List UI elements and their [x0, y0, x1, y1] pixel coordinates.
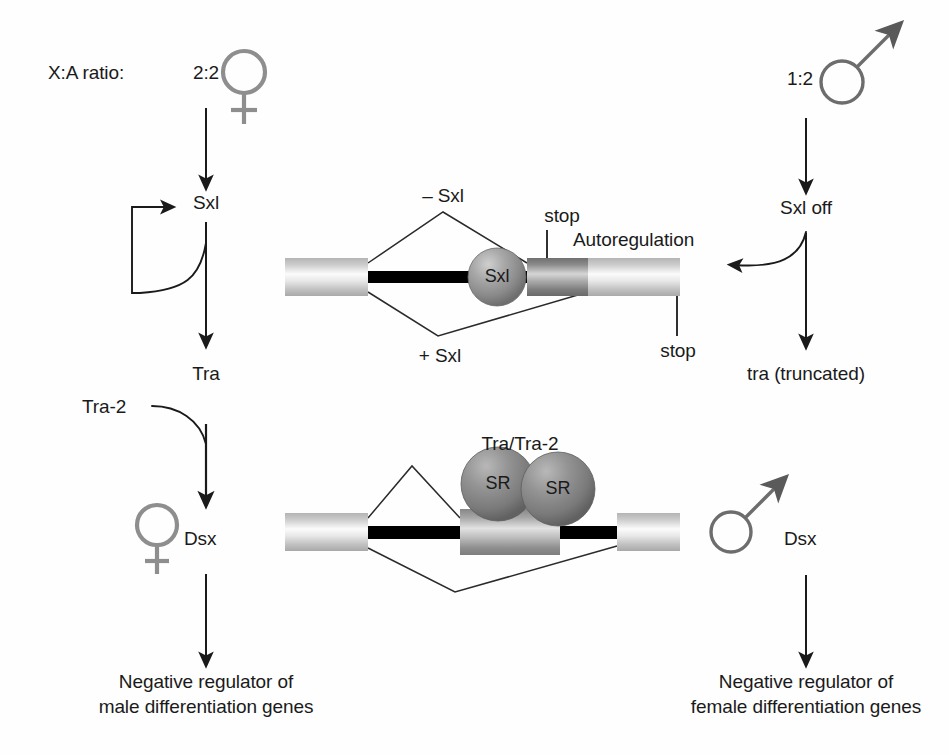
female-ratio-value: 2:2 [193, 62, 219, 84]
dsx-exon-2 [460, 509, 560, 555]
label-sr-right: SR [546, 478, 571, 499]
label-minus-sxl: – Sxl [422, 185, 464, 207]
sxl-exon-2-stop [527, 258, 588, 296]
dsx-intron-1 [368, 526, 460, 539]
venus-female-symbol-top [223, 51, 265, 124]
figure-canvas: X:A ratio: 2:2 1:2 Sxl Tra Tra-2 Dsx Neg… [0, 0, 949, 755]
label-autoregulation: Autoregulation [573, 229, 694, 251]
label-stop-upper: stop [544, 205, 580, 227]
label-sxl-protein: Sxl [485, 266, 510, 287]
splice-line-minus-sxl [368, 212, 527, 263]
mars-male-symbol-dsx [711, 485, 778, 552]
label-sxl-off: Sxl off [780, 197, 832, 219]
outcome-female-line1: Negative regulator of [119, 670, 293, 693]
x-to-a-ratio-label: X:A ratio: [48, 62, 124, 84]
sxl-autoregulation-loop [132, 207, 206, 293]
splice-line-dsx-upper [368, 466, 460, 518]
label-plus-sxl: + Sxl [419, 345, 461, 367]
dsx-gene-diagram [285, 447, 680, 592]
label-tra-tra2-complex: Tra/Tra-2 [482, 433, 559, 455]
venus-female-symbol-dsx [137, 505, 177, 574]
mars-male-symbol-top [821, 31, 893, 103]
dsx-exon-3 [617, 513, 680, 551]
label-sxl: Sxl [193, 192, 219, 214]
label-dsx-male: Dsx [784, 528, 816, 550]
sxl-intron-2 [514, 271, 527, 283]
splice-line-dsx-lower [368, 546, 617, 592]
label-stop-lower: stop [660, 340, 696, 362]
sxl-exon-1 [285, 258, 368, 296]
label-tra: Tra [192, 363, 220, 385]
sxl-exon-3 [588, 258, 680, 296]
outcome-male-line1: Negative regulator of [719, 670, 893, 693]
outcome-female-line2: male differentiation genes [99, 695, 314, 718]
autoregulation-arrow [735, 232, 806, 266]
sxl-intron-1 [368, 271, 491, 283]
dsx-exon-1 [285, 513, 368, 551]
label-tra2: Tra-2 [82, 396, 126, 418]
tra2-input-curve [152, 406, 206, 444]
label-sr-left: SR [486, 473, 511, 494]
male-ratio-value: 1:2 [787, 68, 813, 90]
splice-line-plus-sxl [368, 292, 588, 336]
label-dsx-female: Dsx [184, 528, 216, 550]
dsx-intron-2 [560, 526, 617, 539]
outcome-male-line2: female differentiation genes [691, 695, 921, 718]
label-tra-truncated: tra (truncated) [747, 363, 865, 385]
